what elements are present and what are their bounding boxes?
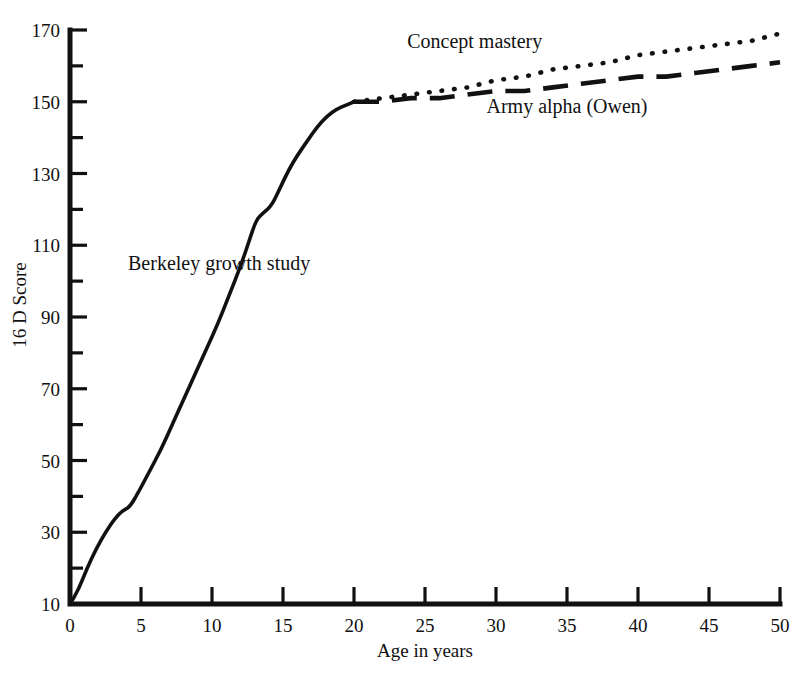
axis-lines [70,30,780,604]
x-tick-label: 15 [274,615,293,636]
axes [70,30,780,604]
y-tick-label: 130 [32,164,61,185]
y-tick-label: 70 [41,379,60,400]
y-axis-tick-labels: 1030507090110130150170 [32,20,61,615]
x-axis-title: Age in years [377,640,473,661]
series-label: Concept mastery [407,30,542,53]
series-line-solid [70,102,354,604]
x-tick-label: 45 [700,615,719,636]
y-tick-label: 50 [41,451,60,472]
y-tick-label: 170 [32,20,61,41]
data-series [70,34,780,604]
y-axis-ticks [72,30,87,604]
x-axis-ticks [141,587,780,602]
x-tick-label: 40 [629,615,648,636]
x-tick-label: 10 [203,615,222,636]
x-tick-label: 35 [558,615,577,636]
series-annotations: Berkeley growth studyConcept masteryArmy… [128,30,648,275]
x-tick-label: 0 [65,615,75,636]
x-tick-label: 50 [771,615,790,636]
series-label: Berkeley growth study [128,252,310,275]
y-tick-label: 110 [32,235,60,256]
y-tick-label: 150 [32,92,61,113]
y-tick-label: 30 [41,522,60,543]
x-tick-label: 30 [487,615,506,636]
growth-curve-chart: 1030507090110130150170 05101520253035404… [0,0,805,673]
chart-page: 1030507090110130150170 05101520253035404… [0,0,805,673]
series-label: Army alpha (Owen) [486,95,647,118]
x-tick-label: 25 [416,615,435,636]
y-tick-label: 10 [41,594,60,615]
x-tick-label: 5 [136,615,146,636]
x-tick-label: 20 [345,615,364,636]
y-axis-title: 16 D Score [9,262,30,347]
y-tick-label: 90 [41,307,60,328]
x-axis-tick-labels: 05101520253035404550 [65,615,789,636]
